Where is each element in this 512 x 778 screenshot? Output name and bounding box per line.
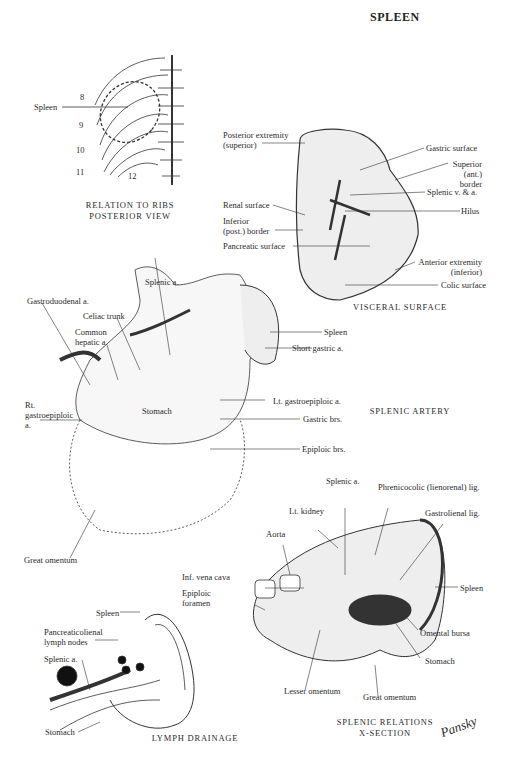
- label-common-hepatic: Common hepatic a.: [75, 327, 108, 347]
- label-inferior-border: Inferior (post.) border: [223, 216, 269, 236]
- label-rib-8: 8: [80, 92, 84, 102]
- label-stomach-artery: Stomach: [142, 406, 172, 416]
- label-lt-gastroepiploic: Lt. gastroepiploic a.: [273, 396, 341, 406]
- spleen-visceral-illustration: [296, 129, 418, 300]
- label-xs-splenic-a: Splenic a.: [326, 476, 360, 486]
- label-omental-bursa: Omental bursa: [420, 628, 470, 638]
- caption-lymph: LYMPH DRAINAGE: [145, 733, 245, 744]
- xsection-illustration: [253, 520, 444, 661]
- label-lt-kidney: Lt. kidney: [289, 506, 324, 516]
- label-lesser-omentum: Lesser omentum: [284, 686, 340, 696]
- label-spleen-ribs: Spleen: [34, 102, 57, 112]
- caption-visceral: VISCERAL SURFACE: [345, 302, 455, 313]
- label-rib-9: 9: [79, 120, 83, 130]
- label-gastric-brs: Gastric brs.: [303, 414, 342, 424]
- label-spleen-artery: Spleen: [324, 327, 347, 337]
- page-title: SPLEEN: [370, 10, 420, 25]
- label-rt-gastroepiploic: Rt. gastroepiploic a.: [25, 400, 73, 430]
- label-celiac-trunk: Celiac trunk: [83, 311, 125, 321]
- label-gastrolienal: Gastrolienal lig.: [425, 508, 480, 518]
- label-aorta: Aorta: [266, 529, 285, 539]
- label-hilus: Hilus: [461, 206, 479, 216]
- caption-ribs: RELATION TO RIBS POSTERIOR VIEW: [70, 200, 190, 222]
- label-xs-stomach: Stomach: [425, 656, 455, 666]
- label-epiploic-foramen: Epiploic foramen: [182, 588, 211, 608]
- ribs-illustration: [88, 55, 184, 185]
- label-posterior-extremity: Posterior extremity (superior): [223, 130, 288, 150]
- label-lymph-stomach: Stomach: [45, 727, 75, 737]
- label-epiploic-brs: Epiploic brs.: [302, 444, 345, 454]
- label-splenic-a: Splenic a.: [145, 277, 179, 287]
- caption-line: X-SECTION: [335, 728, 435, 739]
- label-short-gastric: Short gastric a.: [292, 343, 343, 353]
- label-gastric-surface: Gastric surface: [426, 143, 477, 153]
- label-lymph-spleen: Spleen: [96, 608, 119, 618]
- caption-xsection: SPLENIC RELATIONS X-SECTION: [335, 717, 435, 739]
- label-colic-surface: Colic surface: [441, 280, 486, 290]
- label-xs-great-omentum: Great omentum: [363, 692, 416, 702]
- label-splenic-va: Splenic v. & a.: [427, 187, 477, 197]
- label-lymph-nodes: Pancreaticolienal lymph nodes: [44, 627, 103, 647]
- caption-line: SPLENIC RELATIONS: [335, 717, 435, 728]
- label-gastroduodenal: Gastroduodenal a.: [27, 296, 89, 306]
- label-superior-border: Superior (ant.) border: [440, 159, 482, 189]
- label-xs-spleen: Spleen: [460, 583, 483, 593]
- label-rib-11: 11: [76, 167, 84, 177]
- caption-line: POSTERIOR VIEW: [70, 211, 190, 222]
- label-anterior-extremity: Anterior extremity (inferior): [410, 257, 482, 277]
- label-rib-12: 12: [128, 171, 137, 181]
- label-lymph-splenic-a: Splenic a.: [44, 654, 78, 664]
- label-great-omentum-artery: Great omentum: [24, 555, 77, 565]
- caption-splenic-artery: SPLENIC ARTERY: [365, 406, 455, 417]
- label-rib-10: 10: [76, 145, 85, 155]
- label-renal-surface: Renal surface: [223, 200, 270, 210]
- label-phrenicocolic: Phrenicocolic (lienorenal) lig.: [378, 482, 480, 492]
- caption-line: RELATION TO RIBS: [70, 200, 190, 211]
- label-inf-vena-cava: Inf. vena cava: [182, 572, 230, 582]
- label-pancreatic-surface: Pancreatic surface: [223, 241, 285, 251]
